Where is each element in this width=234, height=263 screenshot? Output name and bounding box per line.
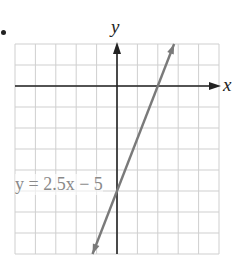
graph-canvas <box>0 0 234 263</box>
y-axis-label: y <box>111 16 119 38</box>
x-axis-label: x <box>223 74 231 96</box>
coordinate-plane: y x y = 2.5x − 5 <box>0 0 234 263</box>
axes <box>15 42 221 254</box>
equation-label: y = 2.5x − 5 <box>15 174 103 195</box>
